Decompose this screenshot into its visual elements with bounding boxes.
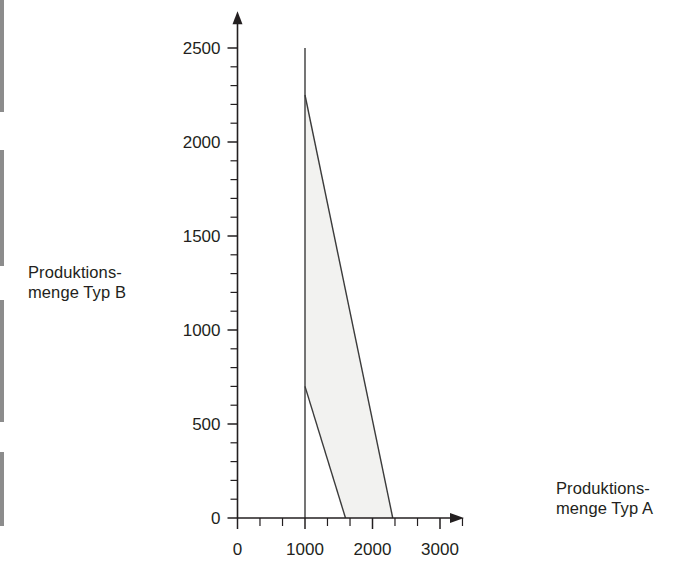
y-tick-label: 500: [192, 415, 220, 434]
x-tick-label: 0: [233, 540, 242, 559]
y-tick-label: 1000: [183, 321, 221, 340]
chart-plot-area: 050010001500200025000100020003000: [0, 0, 694, 582]
y-tick-label: 2000: [183, 133, 221, 152]
figure-container: Produktions- menge Typ B Produktions- me…: [0, 0, 694, 582]
y-axis-arrow-icon: [233, 11, 243, 24]
x-tick-label: 2000: [354, 540, 392, 559]
y-tick-label: 1500: [183, 227, 221, 246]
x-tick-label: 3000: [421, 540, 459, 559]
y-tick-label: 2500: [183, 39, 221, 58]
x-tick-label: 1000: [286, 540, 324, 559]
y-tick-label: 0: [211, 509, 220, 528]
